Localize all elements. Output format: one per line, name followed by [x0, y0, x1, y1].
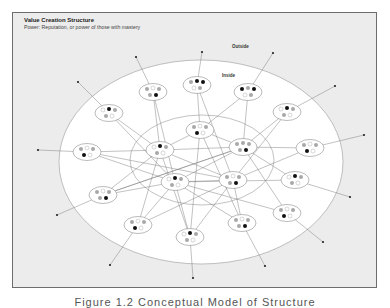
member-dot-icon	[179, 177, 183, 181]
endpoint-dot-icon	[272, 52, 274, 54]
member-dot-icon	[176, 183, 180, 187]
member-dot-icon	[82, 153, 86, 157]
member-dot-icon	[243, 224, 247, 228]
member-dot-icon	[288, 214, 292, 218]
member-dot-icon	[246, 218, 250, 222]
member-dot-icon	[139, 226, 143, 230]
member-dot-icon	[107, 190, 111, 194]
member-dot-icon	[279, 107, 283, 111]
member-dot-icon	[299, 175, 303, 179]
member-dot-icon	[148, 93, 152, 97]
member-dot-icon	[288, 113, 292, 117]
member-dot-icon	[247, 142, 251, 146]
group-node	[273, 104, 301, 121]
member-dot-icon	[185, 238, 189, 242]
endpoint-dot-icon	[201, 51, 203, 53]
member-dot-icon	[234, 181, 238, 185]
member-dot-icon	[130, 220, 134, 224]
group-node	[234, 84, 262, 101]
member-dot-icon	[282, 113, 286, 117]
member-dot-icon	[161, 151, 165, 155]
member-dot-icon	[164, 145, 168, 149]
member-dot-icon	[133, 226, 137, 230]
member-dot-icon	[158, 144, 162, 148]
member-dot-icon	[235, 142, 239, 146]
group-node	[219, 172, 247, 189]
member-dot-icon	[154, 93, 158, 97]
member-dot-icon	[182, 232, 186, 236]
group-node	[124, 217, 152, 234]
member-dot-icon	[170, 183, 174, 187]
member-dot-icon	[189, 80, 193, 84]
member-dot-icon	[291, 107, 295, 111]
member-dot-icon	[194, 232, 198, 236]
member-dot-icon	[237, 224, 241, 228]
group-node	[229, 139, 257, 156]
member-dot-icon	[98, 196, 102, 200]
member-dot-icon	[231, 174, 235, 178]
figure-caption: Figure 1.2 Conceptual Model of Structure	[0, 296, 390, 308]
group-node	[73, 144, 101, 161]
member-dot-icon	[234, 218, 238, 222]
endpoint-dot-icon	[109, 264, 111, 266]
member-dot-icon	[79, 147, 83, 151]
member-dot-icon	[88, 153, 92, 157]
endpoint-dot-icon	[135, 56, 137, 58]
member-dot-icon	[291, 208, 295, 212]
group-node	[281, 172, 309, 189]
group-node	[296, 140, 324, 157]
member-dot-icon	[191, 238, 195, 242]
endpoint-dot-icon	[77, 81, 79, 83]
member-dot-icon	[240, 217, 244, 221]
member-dot-icon	[104, 114, 108, 118]
member-dot-icon	[237, 175, 241, 179]
group-node	[89, 187, 117, 204]
group-node	[146, 142, 174, 159]
member-dot-icon	[155, 151, 159, 155]
group-node	[186, 122, 214, 139]
group-node	[95, 105, 123, 122]
member-dot-icon	[287, 175, 291, 179]
group-node	[273, 205, 301, 222]
member-dot-icon	[282, 214, 286, 218]
member-dot-icon	[198, 86, 202, 90]
member-dot-icon	[244, 148, 248, 152]
member-dot-icon	[290, 181, 294, 185]
member-dot-icon	[285, 106, 289, 110]
inside-label: Inside	[222, 73, 236, 78]
member-dot-icon	[157, 87, 161, 91]
member-dot-icon	[145, 87, 149, 91]
endpoint-dot-icon	[192, 277, 194, 279]
member-dot-icon	[101, 189, 105, 193]
member-dot-icon	[240, 87, 244, 91]
endpoint-dot-icon	[322, 241, 324, 243]
member-dot-icon	[252, 87, 256, 91]
group-node	[139, 84, 167, 101]
member-dot-icon	[285, 207, 289, 211]
endpoint-dot-icon	[363, 134, 365, 136]
member-dot-icon	[104, 196, 108, 200]
endpoint-dot-icon	[37, 149, 39, 151]
group-node	[176, 229, 204, 246]
endpoint-dot-icon	[264, 265, 266, 267]
member-dot-icon	[167, 177, 171, 181]
member-dot-icon	[241, 141, 245, 145]
member-dot-icon	[296, 181, 300, 185]
member-dot-icon	[192, 86, 196, 90]
group-node	[228, 215, 256, 232]
member-dot-icon	[311, 149, 315, 153]
member-dot-icon	[204, 125, 208, 129]
member-dot-icon	[173, 176, 177, 180]
member-dot-icon	[188, 231, 192, 235]
member-dot-icon	[308, 142, 312, 146]
group-node	[161, 174, 189, 191]
member-dot-icon	[107, 107, 111, 111]
member-dot-icon	[314, 143, 318, 147]
member-dot-icon	[302, 143, 306, 147]
member-dot-icon	[249, 93, 253, 97]
member-dot-icon	[228, 181, 232, 185]
member-dot-icon	[305, 149, 309, 153]
member-dot-icon	[91, 147, 95, 151]
member-dot-icon	[101, 108, 105, 112]
